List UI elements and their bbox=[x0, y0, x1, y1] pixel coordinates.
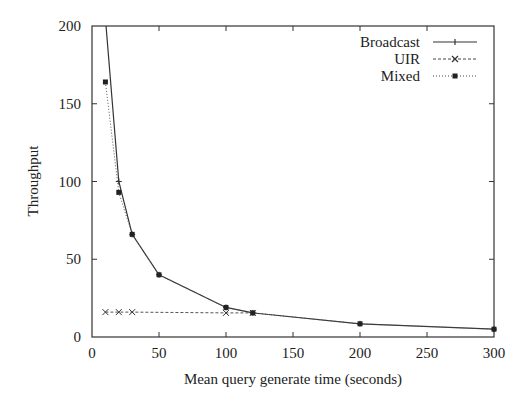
legend: Broadcast UIR Mixed bbox=[360, 34, 477, 84]
x-tick-labels: 050100150200250300 bbox=[88, 345, 505, 361]
cross-marker-icon bbox=[452, 56, 458, 62]
series-line-mixed bbox=[105, 82, 494, 329]
x-axis-title: Mean query generate time (seconds) bbox=[184, 371, 402, 388]
cross-marker-icon bbox=[129, 309, 135, 315]
square-marker-icon bbox=[130, 232, 135, 237]
y-tick-label: 100 bbox=[59, 174, 82, 190]
x-tick-label: 100 bbox=[215, 345, 238, 361]
square-marker-icon bbox=[103, 79, 108, 84]
legend-item-uir: UIR bbox=[394, 51, 477, 67]
series-line-uir bbox=[105, 312, 252, 313]
line-chart: 050100150200250300 050100150200 Mean que… bbox=[0, 0, 531, 415]
square-marker-icon bbox=[250, 310, 255, 315]
legend-item-broadcast: Broadcast bbox=[360, 34, 477, 50]
x-tick-label: 0 bbox=[88, 345, 96, 361]
y-tick-label: 200 bbox=[59, 18, 82, 34]
square-marker-icon bbox=[358, 321, 363, 326]
plot-frame bbox=[92, 26, 494, 337]
y-tick-label: 0 bbox=[74, 329, 82, 345]
legend-label-uir: UIR bbox=[394, 51, 420, 67]
x-tick-label: 200 bbox=[349, 345, 372, 361]
square-marker-icon bbox=[224, 305, 229, 310]
plus-marker-icon bbox=[116, 179, 122, 185]
series-markers bbox=[102, 79, 497, 332]
square-marker-icon bbox=[116, 190, 121, 195]
y-tick-labels: 050100150200 bbox=[59, 18, 82, 345]
series-group bbox=[105, 18, 494, 329]
legend-label-broadcast: Broadcast bbox=[360, 34, 421, 50]
x-tick-label: 150 bbox=[282, 345, 305, 361]
y-tick-label: 150 bbox=[59, 96, 82, 112]
y-tick-label: 50 bbox=[66, 251, 81, 267]
y-axis-title: Throughput bbox=[25, 145, 41, 217]
square-marker-icon bbox=[453, 74, 458, 79]
legend-item-mixed: Mixed bbox=[381, 68, 477, 84]
square-marker-icon bbox=[157, 272, 162, 277]
x-tick-label: 250 bbox=[416, 345, 439, 361]
square-marker-icon bbox=[492, 327, 497, 332]
axis-ticks bbox=[92, 26, 494, 337]
legend-label-mixed: Mixed bbox=[381, 68, 421, 84]
x-tick-label: 50 bbox=[152, 345, 167, 361]
x-tick-label: 300 bbox=[483, 345, 506, 361]
series-line-broadcast bbox=[105, 18, 494, 329]
